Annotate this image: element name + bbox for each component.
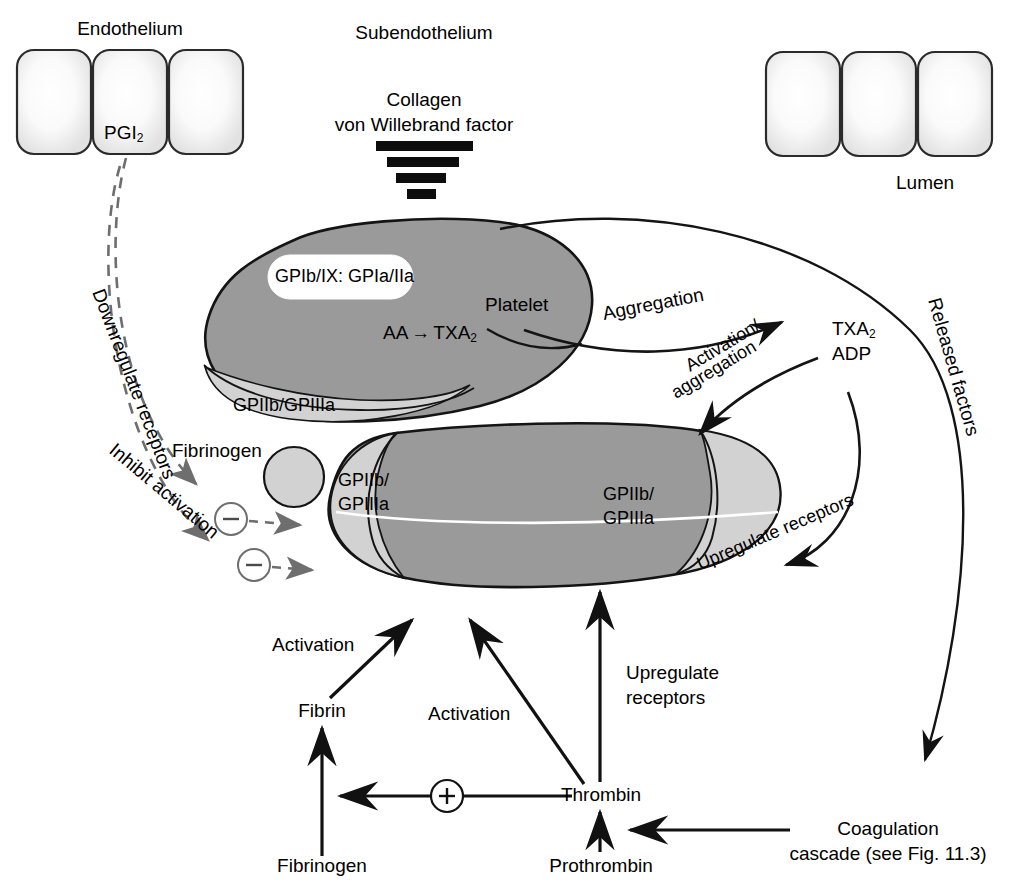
fibrin-label: Fibrin — [298, 700, 346, 721]
vwf-label: von Willebrand factor — [335, 114, 513, 135]
txa2-mediator-text: TXA — [832, 318, 869, 339]
txa2-mediator-subscript: 2 — [869, 327, 876, 341]
txa2-synthesis-label: AA→TXA2 — [383, 322, 477, 345]
lower-platelet-left-receptor-line1: GPIIb/ — [338, 470, 389, 490]
diagram-vector-layer: Aggregation Released factors Activation/… — [0, 0, 1035, 887]
collagen-vwf-bars — [376, 141, 473, 199]
upregulate-receptors-line1: Upregulate — [626, 662, 719, 683]
lumen-label: Lumen — [896, 172, 954, 193]
fibrinogen-bridge-circle — [264, 447, 324, 507]
lower-platelet-right-receptor-line2: GPIIIa — [603, 508, 654, 528]
adp-mediator-label: ADP — [832, 343, 871, 364]
pgi2-subscript: 2 — [137, 131, 144, 145]
upper-platelet-shape — [204, 219, 592, 422]
upper-platelet-label: Platelet — [485, 294, 548, 315]
lower-platelet-left-receptor-line2: GPIIIa — [338, 494, 389, 514]
collagen-label: Collagen — [387, 89, 462, 110]
endothelium-right-cells — [766, 52, 992, 156]
minus-sign-circles — [215, 503, 270, 581]
upper-platelet-adhesion-receptors: GPIb/IX: GPIa/IIa — [275, 266, 414, 286]
bottom-cascade-arrows — [322, 592, 790, 856]
aa-text: AA — [383, 322, 408, 343]
activation-left-label: Activation — [272, 634, 354, 655]
synthesis-arrow-icon: → — [408, 322, 433, 343]
coagulation-cascade-line2: cascade (see Fig. 11.3) — [789, 843, 986, 864]
upper-platelet-gpiib-gpiiia: GPIIb/GPIIIa — [233, 395, 335, 415]
pgi2-text: PGI — [104, 122, 137, 143]
aggregation-label: Aggregation — [601, 284, 706, 324]
coagulation-cascade-line1: Coagulation — [837, 818, 938, 839]
fibrinogen-bridge-label: Fibrinogen — [172, 440, 262, 461]
activation-mid-label: Activation — [428, 703, 510, 724]
plus-sign-circle — [431, 780, 463, 812]
prothrombin-label: Prothrombin — [549, 855, 653, 876]
thrombin-label: Thrombin — [561, 784, 641, 805]
txa2-subscript: 2 — [470, 331, 477, 345]
upregulate-receptors-curve-arrow — [786, 392, 860, 565]
fibrinogen-label: Fibrinogen — [277, 855, 367, 876]
pgi2-label: PGI2 — [104, 122, 143, 145]
txa2-text: TXA — [433, 322, 470, 343]
txa2-mediator-label: TXA2 — [832, 318, 876, 341]
upregulate-receptors-line2: receptors — [626, 687, 705, 708]
lower-platelet-right-receptor-line1: GPIIb/ — [603, 484, 654, 504]
endothelium-label: Endothelium — [77, 18, 183, 39]
subendothelium-label: Subendothelium — [355, 22, 492, 43]
figure-canvas: Aggregation Released factors Activation/… — [0, 0, 1035, 887]
